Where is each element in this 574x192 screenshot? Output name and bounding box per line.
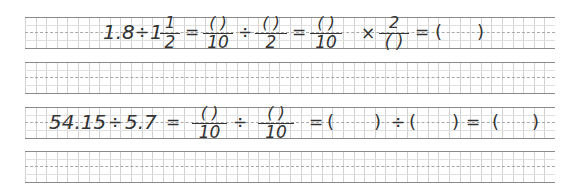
blank-numerator[interactable]: ( ) [255,15,287,31]
blank-numerator[interactable]: ( ) [310,15,342,31]
fraction-blank-over-10: ( ) 10 [310,17,342,55]
fraction-blank-over-10: ( ) 10 [192,107,227,145]
dividend-54-15: 54.15 [49,112,106,132]
equals-sign: = [309,114,323,131]
equals-sign: = [185,24,199,41]
blank-numerator[interactable]: ( ) [203,15,233,31]
answer-open-paren: ( [492,113,499,131]
divide-sign: ÷ [108,114,122,131]
fraction-2-over-blank: 2 ( ) [379,17,409,55]
blank-denominator[interactable]: ( ) [379,34,409,51]
answer-open-paren: ( [435,23,442,41]
equals-sign: = [466,114,480,131]
fraction-blank-over-10: ( ) 10 [258,107,294,145]
divide-sign: ÷ [238,24,252,41]
answer-close-paren: ) [532,113,539,131]
divide-sign: ÷ [233,114,247,131]
multiply-sign: × [361,25,375,42]
blank-2-close-paren: ) [452,113,459,131]
blank-numerator[interactable]: ( ) [192,105,227,121]
equation-problem-1: 1.8 ÷ 1 1 2 = ( ) 10 ÷ ( ) 2 = ( ) 10 × … [0,0,574,60]
answer-close-paren: ) [477,23,484,41]
equals-sign: = [166,114,180,131]
grid-row-blank-2[interactable] [25,151,555,183]
divisor-5-7: 5.7 [125,112,157,132]
fraction-one-half: 1 2 [160,17,180,55]
fraction-blank-over-10: ( ) 10 [203,17,233,55]
divide-sign: ÷ [391,114,405,131]
dividend-1-8: 1.8 [103,22,135,42]
blank-1-open-paren: ( [327,113,334,131]
fraction-blank-over-2: ( ) 2 [255,17,287,55]
equation-problem-2: 54.15 ÷ 5.7 = ( ) 10 ÷ ( ) 10 = ( ) ÷ ( … [0,95,574,150]
blank-1-close-paren: ) [374,113,381,131]
equals-sign: = [292,24,306,41]
blank-numerator[interactable]: ( ) [258,105,294,121]
equals-sign: = [415,24,429,41]
grid-row-blank-1[interactable] [25,62,555,94]
divide-sign: ÷ [135,24,149,41]
blank-2-open-paren: ( [409,113,416,131]
